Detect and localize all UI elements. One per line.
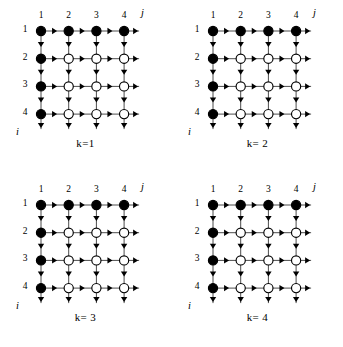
node-filled-r3c1: [208, 82, 217, 91]
arrow-head-right: [133, 83, 138, 89]
arrow-head-right: [107, 83, 112, 89]
node-open-r4c2: [236, 284, 245, 293]
nodes: [208, 200, 300, 292]
node-filled-r4c1: [208, 110, 217, 119]
arrow-head-right: [52, 202, 57, 208]
panel-caption: k= 3: [0, 311, 171, 323]
arrow-head-down: [265, 271, 271, 276]
arrow-head-down: [38, 297, 44, 302]
row-tick-2: 2: [19, 52, 31, 62]
arrow-head-down: [93, 216, 99, 221]
row-tick-1: 1: [19, 24, 31, 34]
col-tick-1: 1: [207, 184, 219, 194]
lattice-lines: [41, 205, 124, 288]
arrow-head-right: [133, 111, 138, 117]
axis-label-j: j: [141, 7, 144, 18]
arrow-head-right: [305, 202, 310, 208]
arrow-head-right: [252, 257, 257, 263]
arrow-head-down: [265, 297, 271, 302]
node-filled-r4c1: [36, 284, 45, 293]
arrow-head-down: [238, 97, 244, 102]
node-filled-r3c1: [208, 256, 217, 265]
arrow-head-down: [238, 271, 244, 276]
panel-caption: k=1: [0, 137, 171, 149]
arrow-head-right: [224, 28, 229, 34]
arrow-head-right: [252, 111, 257, 117]
arrow-head-down: [66, 271, 72, 276]
arrow-head-down: [293, 123, 299, 128]
arrow-head-down: [66, 97, 72, 102]
arrow-head-down: [93, 42, 99, 47]
node-open-r3c2: [236, 256, 245, 265]
row-tick-4: 4: [191, 281, 203, 291]
lattice-lines: [213, 205, 296, 288]
arrow-head-right: [252, 202, 257, 208]
arrow-head-down: [210, 70, 216, 75]
arrow-head-down: [93, 271, 99, 276]
row-tick-4: 4: [19, 107, 31, 117]
arrow-head-right: [305, 285, 310, 291]
node-filled-r1c3: [264, 26, 273, 35]
node-open-r2c3: [92, 228, 101, 237]
arrow-head-right: [80, 230, 85, 236]
row-tick-2: 2: [191, 52, 203, 62]
arrow-head-down: [121, 216, 127, 221]
lattice-lines: [213, 31, 296, 114]
node-open-r4c3: [92, 110, 101, 119]
col-tick-4: 4: [290, 10, 302, 20]
arrow-head-right: [52, 83, 57, 89]
node-filled-r4c1: [208, 284, 217, 293]
arrow-head-down: [66, 297, 72, 302]
node-open-r3c4: [120, 82, 129, 91]
arrow-head-down: [265, 97, 271, 102]
node-filled-r1c4: [292, 200, 301, 209]
node-filled-r1c2: [64, 200, 73, 209]
axis-label-j: j: [313, 181, 316, 192]
arrow-head-right: [279, 56, 284, 62]
node-filled-r2c1: [208, 228, 217, 237]
arrow-head-right: [133, 56, 138, 62]
arrow-head-right: [107, 285, 112, 291]
arrow-head-right: [80, 257, 85, 263]
arrow-head-down: [66, 216, 72, 221]
arrow-head-down: [293, 42, 299, 47]
node-filled-r4c1: [36, 110, 45, 119]
arrow-head-right: [107, 111, 112, 117]
node-open-r2c4: [120, 54, 129, 63]
arrow-head-down: [38, 271, 44, 276]
arrow-head-down: [210, 297, 216, 302]
node-filled-r1c1: [36, 200, 45, 209]
node-open-r2c4: [292, 228, 301, 237]
lattice-lines: [41, 31, 124, 114]
node-open-r3c3: [264, 256, 273, 265]
arrow-head-down: [293, 244, 299, 249]
row-tick-2: 2: [191, 226, 203, 236]
arrow-head-down: [121, 271, 127, 276]
col-tick-3: 3: [262, 184, 274, 194]
arrow-head-down: [121, 97, 127, 102]
col-tick-2: 2: [63, 184, 75, 194]
node-open-r3c4: [292, 256, 301, 265]
arrow-head-down: [121, 123, 127, 128]
arrow-head-right: [133, 28, 138, 34]
node-open-r4c3: [264, 284, 273, 293]
panel-caption: k= 2: [172, 137, 343, 149]
arrow-head-down: [238, 42, 244, 47]
col-tick-3: 3: [90, 10, 102, 20]
panel-caption: k= 4: [172, 311, 343, 323]
col-tick-4: 4: [118, 184, 130, 194]
arrow-head-down: [93, 123, 99, 128]
arrow-head-right: [224, 285, 229, 291]
axis-label-i: i: [16, 300, 19, 311]
arrow-head-down: [121, 42, 127, 47]
node-open-r3c3: [92, 256, 101, 265]
node-filled-r2c1: [36, 228, 45, 237]
col-tick-1: 1: [207, 10, 219, 20]
arrow-head-down: [293, 271, 299, 276]
node-open-r2c3: [264, 228, 273, 237]
node-filled-r1c3: [92, 200, 101, 209]
arrow-head-right: [224, 56, 229, 62]
arrow-head-down: [66, 70, 72, 75]
arrow-head-down: [293, 97, 299, 102]
arrow-head-down: [38, 244, 44, 249]
